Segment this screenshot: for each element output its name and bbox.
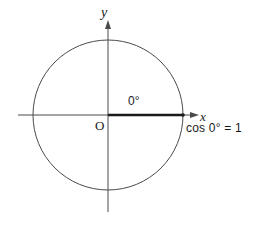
origin-label: O bbox=[95, 119, 104, 132]
terminal-point-marker bbox=[181, 113, 185, 117]
unit-circle-figure: y x 0° O cos 0° = 1 bbox=[0, 0, 257, 225]
unit-circle-svg bbox=[0, 0, 257, 225]
x-axis-arrowhead-icon bbox=[190, 112, 199, 118]
y-axis-arrowhead-icon bbox=[105, 20, 111, 29]
cosine-equation-label: cos 0° = 1 bbox=[186, 122, 242, 134]
y-axis-label: y bbox=[101, 6, 107, 20]
angle-label: 0° bbox=[128, 95, 139, 107]
